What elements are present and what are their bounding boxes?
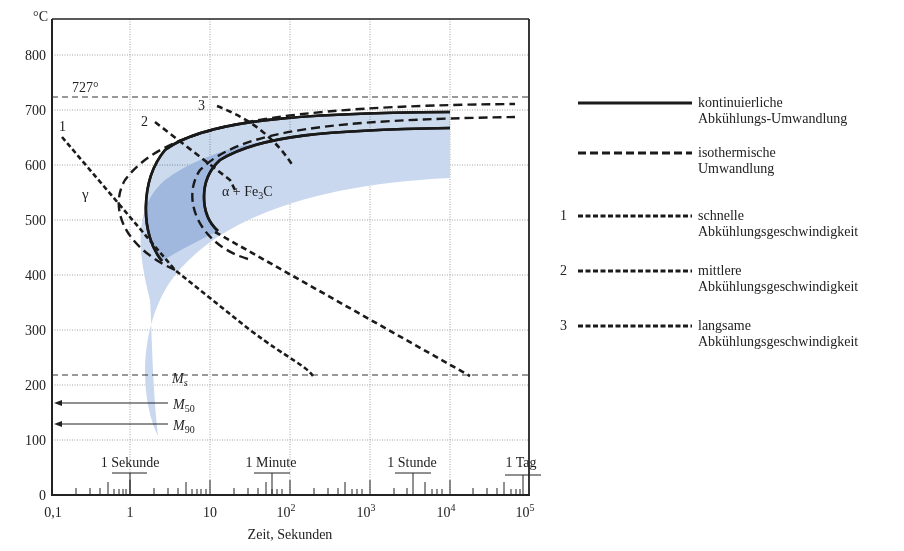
x-axis-title: Zeit, Sekunden: [248, 527, 333, 542]
legend-number: 3: [560, 318, 574, 334]
svg-text:1 Stunde: 1 Stunde: [387, 455, 436, 470]
svg-text:600: 600: [25, 158, 46, 173]
curve-3-label: 3: [198, 98, 205, 113]
legend-label: mittlere Abkühlungsgeschwindigkeit: [698, 263, 858, 295]
svg-text:400: 400: [25, 268, 46, 283]
y-unit: °C: [33, 9, 48, 24]
x-axis-labels: 0,1 1 10 102 103 104 105: [44, 502, 534, 520]
legend-item-slow-cooling: 3 langsame Abkühlungsgeschwindigkeit: [560, 318, 858, 350]
pearlite-label: α + Fe3C: [222, 184, 273, 201]
curve-1-label: 1: [59, 119, 66, 134]
x-minor-ticks: [76, 480, 520, 495]
legend-item-medium-cooling: 2 mittlere Abkühlungsgeschwindigkeit: [560, 263, 858, 295]
svg-text:1 Sekunde: 1 Sekunde: [101, 455, 160, 470]
svg-text:103: 103: [357, 502, 376, 520]
svg-text:102: 102: [277, 502, 296, 520]
dotted-line-swatch: [574, 263, 692, 279]
svg-text:0,1: 0,1: [44, 505, 62, 520]
svg-text:200: 200: [25, 378, 46, 393]
dotted-line-swatch: [574, 208, 692, 224]
svg-text:700: 700: [25, 103, 46, 118]
svg-text:0: 0: [39, 488, 46, 503]
dashed-line-swatch: [574, 145, 692, 161]
svg-text:1 Minute: 1 Minute: [246, 455, 297, 470]
time-marker-labels: 1 Sekunde 1 Minute 1 Stunde 1 Tag: [101, 455, 537, 470]
legend-item-fast-cooling: 1 schnelle Abkühlungsgeschwindigkeit: [560, 208, 858, 240]
time-markers: [112, 473, 541, 495]
ttt-diagram: 0 100 200 300 400 500 600 700 800 °C 0,1…: [0, 0, 560, 551]
legend-label: langsame Abkühlungsgeschwindigkeit: [698, 318, 858, 350]
svg-text:1: 1: [127, 505, 134, 520]
legend-label: kontinuierliche Abkühlungs-Umwandlung: [698, 95, 847, 127]
svg-text:500: 500: [25, 213, 46, 228]
legend-number: 1: [560, 208, 574, 224]
gamma-label: γ: [81, 186, 89, 202]
eutectoid-label: 727°: [72, 80, 99, 95]
m90-label: M90: [172, 418, 195, 435]
svg-text:100: 100: [25, 433, 46, 448]
svg-text:800: 800: [25, 48, 46, 63]
m90-arrow: [54, 421, 168, 427]
solid-line-swatch: [574, 95, 692, 111]
legend-number: 2: [560, 263, 574, 279]
svg-text:105: 105: [516, 502, 535, 520]
svg-text:10: 10: [203, 505, 217, 520]
y-axis-labels: 0 100 200 300 400 500 600 700 800: [25, 48, 46, 503]
svg-text:1 Tag: 1 Tag: [505, 455, 536, 470]
legend-item-isothermal: isothermische Umwandlung: [560, 145, 776, 177]
legend-label: schnelle Abkühlungsgeschwindigkeit: [698, 208, 858, 240]
svg-text:300: 300: [25, 323, 46, 338]
legend-label: isothermische Umwandlung: [698, 145, 776, 177]
legend: kontinuierliche Abkühlungs-Umwandlung is…: [560, 0, 904, 551]
dotted-line-swatch: [574, 318, 692, 334]
svg-text:104: 104: [437, 502, 456, 520]
curve-2-label: 2: [141, 114, 148, 129]
legend-item-continuous: kontinuierliche Abkühlungs-Umwandlung: [560, 95, 847, 127]
